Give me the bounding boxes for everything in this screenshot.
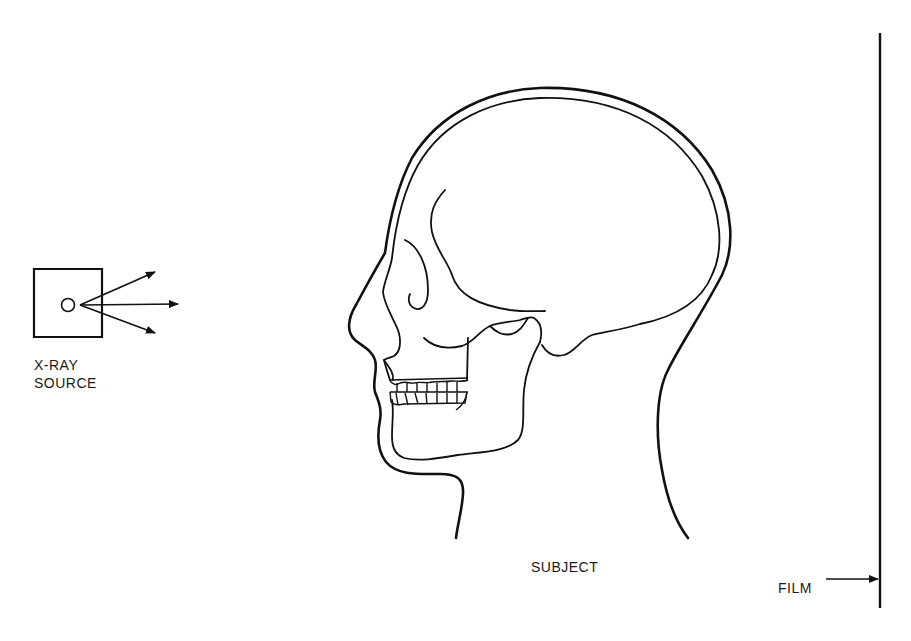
subject-head <box>349 88 730 538</box>
film <box>826 33 880 608</box>
skull-maxilla-back <box>467 338 468 380</box>
xray-source-focal-spot <box>62 299 75 312</box>
teeth-lower-row <box>390 392 467 405</box>
skull-temporal-line <box>431 190 545 311</box>
xray-source-box <box>34 269 102 337</box>
ray-arrow-up <box>80 272 155 305</box>
ray-arrow-center <box>80 304 178 305</box>
ray-arrow-down <box>80 305 155 333</box>
skull-nasal-profile <box>383 258 400 380</box>
skull-articular-eminence <box>490 318 528 335</box>
xray-source <box>34 269 178 337</box>
xray-source-label-line2: SOURCE <box>34 374 97 392</box>
teeth <box>390 378 468 410</box>
xray-source-label-line1: X-RAY <box>34 356 97 374</box>
xray-source-label: X-RAY SOURCE <box>34 356 97 392</box>
diagram-canvas <box>0 0 911 641</box>
skull-zygomatic-arch <box>424 317 541 347</box>
film-label: FILM <box>778 579 812 597</box>
teeth-upper-dividers <box>397 382 457 392</box>
subject-label: SUBJECT <box>531 558 598 576</box>
skull-orbit <box>405 240 428 309</box>
skull-cranium-outline <box>392 98 719 356</box>
